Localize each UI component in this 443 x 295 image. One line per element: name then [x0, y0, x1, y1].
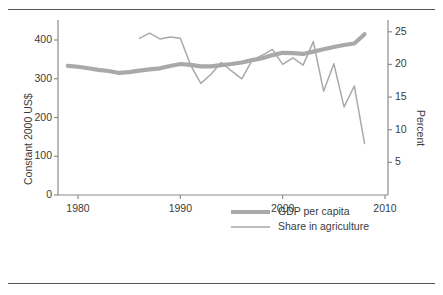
x-tick-2010: 2010	[365, 202, 405, 214]
y-tick-left-400: 400	[16, 33, 52, 45]
legend-label-share-in-agriculture: Share in agriculture	[278, 220, 369, 232]
legend-swatches	[231, 212, 270, 227]
y-axis-right-title: Percent	[415, 110, 427, 146]
series-line-gdp-per-capita	[68, 34, 365, 73]
y-axis-left-title: Constant 2000 US$	[22, 93, 34, 185]
y-tick-right-5: 5	[395, 155, 419, 167]
x-tick-1990: 1990	[160, 202, 200, 214]
y-tick-right-20: 20	[395, 57, 419, 69]
plot-area	[0, 0, 443, 295]
y-tick-left-0: 0	[16, 188, 52, 200]
y-tick-right-15: 15	[395, 90, 419, 102]
series-lines	[68, 33, 365, 143]
legend-label-gdp-per-capita: GDP per capita	[278, 205, 350, 217]
chart-figure: 01002003004005101520251980199020002010 C…	[0, 0, 443, 295]
y-tick-right-25: 25	[395, 25, 419, 37]
x-tick-1980: 1980	[58, 202, 98, 214]
y-tick-left-300: 300	[16, 72, 52, 84]
